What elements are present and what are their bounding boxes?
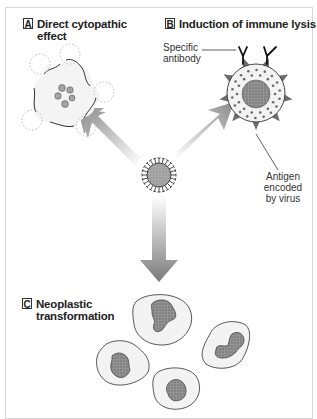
- viral-particle-dot: [270, 111, 273, 114]
- viral-particle-dot: [274, 93, 277, 96]
- viral-particle-dot: [236, 93, 239, 96]
- virus-spike: [144, 167, 148, 170]
- arrow-to-panel-b: [176, 102, 234, 160]
- viral-particle-dot: [272, 101, 275, 104]
- virus-spike: [151, 160, 154, 164]
- virus-spike-tip: [142, 169, 143, 172]
- viral-particle-dot: [247, 70, 250, 73]
- virus-spike: [165, 160, 168, 164]
- viral-particle-dot: [250, 111, 253, 114]
- viral-particle-dot: [263, 70, 266, 73]
- virus-spike-tip: [175, 169, 176, 172]
- viral-particle-dot: [278, 97, 281, 100]
- virus-spike: [169, 167, 173, 170]
- virus-spike: [171, 178, 176, 179]
- viral-particle-dot: [231, 96, 234, 99]
- virus-spike-tip: [153, 191, 156, 192]
- arrow-to-panel-a: [78, 108, 146, 176]
- virus-spike-tip: [175, 178, 176, 181]
- neoplastic-cell-4: [153, 368, 200, 409]
- viral-particle-dot: [254, 117, 257, 120]
- viral-particle-dot: [231, 88, 234, 91]
- viral-particle-dot: [278, 89, 281, 92]
- virus-spike: [143, 178, 148, 179]
- viral-particle-dot: [267, 78, 270, 81]
- viral-particle-dot: [259, 74, 262, 77]
- viral-particle-dot: [234, 80, 237, 83]
- virus-spike: [147, 183, 151, 187]
- viral-particle-dot: [259, 111, 262, 114]
- virus-spike: [144, 181, 148, 184]
- viral-particle-dot: [240, 74, 243, 77]
- virus-spike-tip: [162, 191, 165, 192]
- virus-spike: [151, 185, 154, 189]
- neoplastic-cell-3: [97, 341, 150, 385]
- virus-spike: [147, 163, 151, 167]
- virus-spike: [165, 185, 168, 189]
- viral-particle-dot: [239, 111, 242, 114]
- virus-particle: [142, 158, 176, 192]
- viral-particle-dot: [234, 104, 237, 107]
- virus-spike: [171, 171, 176, 172]
- virus-spike: [167, 183, 171, 187]
- virus-spike: [167, 163, 171, 167]
- virus-spike: [162, 187, 163, 192]
- viral-particle-dot: [238, 101, 241, 104]
- viral-particle-dot: [243, 78, 246, 81]
- viral-particle-dot: [255, 69, 258, 72]
- virus-spike: [169, 181, 173, 184]
- viral-particle-dot: [262, 115, 265, 118]
- viral-particle-dot: [250, 74, 253, 77]
- neoplastic-cell-2: [202, 322, 249, 369]
- virus-spike-tip: [142, 178, 143, 181]
- infected-cell-nucleus: [242, 80, 270, 108]
- virus-spike-tip: [162, 158, 165, 159]
- viral-particle-dot: [267, 108, 270, 111]
- virus-spike: [162, 159, 163, 164]
- infected-cell: [220, 58, 293, 130]
- arrow-to-panel-c: [140, 196, 178, 282]
- viral-particle-dot: [272, 84, 275, 87]
- virus-spike: [155, 187, 156, 192]
- viral-particle-dot: [246, 115, 249, 118]
- virus-spike: [155, 159, 156, 164]
- viral-particle-dot: [275, 105, 278, 108]
- virus-spike: [143, 171, 148, 172]
- viral-particle-dot: [238, 84, 241, 87]
- viral-particle-dot: [271, 75, 274, 78]
- neoplastic-cell-1: [133, 295, 192, 345]
- virus-capsid: [147, 163, 171, 187]
- virus-spike-tip: [153, 158, 156, 159]
- viral-particle-dot: [276, 81, 279, 84]
- viral-particle-dot: [243, 108, 246, 111]
- antigen-leader-line: [256, 134, 278, 170]
